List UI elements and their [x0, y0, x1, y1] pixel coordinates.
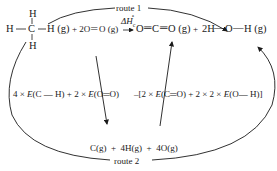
methane-h-right: H (g)	[47, 24, 69, 35]
bond-make-plus: + 2 × 2 ×	[186, 89, 224, 99]
products-plus: +	[193, 25, 198, 34]
bond-make-expression: –[2 × E(C═O) + 2 × 2 × E(O— H)]	[134, 90, 262, 99]
water-bond-2: —	[233, 23, 244, 34]
enthalpy-standard-sup: ∘	[131, 13, 134, 19]
water-bond-1: —	[214, 23, 225, 34]
bond-break-bond-1: (C — H)	[33, 89, 65, 99]
water-h: H (g)	[244, 24, 266, 35]
bond-break-bond-2: (O═O)	[94, 89, 119, 99]
methane-h-top: H	[29, 9, 37, 20]
co2-o-left: O	[136, 24, 144, 35]
gaseous-atoms: C(g) + 4H(g) + 4O(g)	[90, 144, 178, 153]
bond-break-coef-2: 2 ×	[74, 89, 88, 99]
bond-break-expression: 4 × E(C — H) + 2 × E(O═O)	[13, 90, 119, 99]
route-2-label: route 2	[114, 157, 139, 166]
methane-c: C	[28, 24, 35, 35]
co2-state: O (g)	[168, 24, 190, 35]
co2-double-bond-1: ═	[144, 23, 151, 34]
methane-h-left: H	[6, 24, 14, 35]
bond-make-bond-2: (O— H)]	[229, 89, 262, 99]
double-bond-o2: ═	[91, 24, 97, 33]
water-o: O	[225, 24, 233, 35]
route-1-label: route 1	[116, 4, 141, 13]
methane-h-bottom: H	[29, 41, 37, 52]
hess-cycle-diagram: route 1 H H C H H (g) + 2O ═ O (g) ΔHc∘ …	[0, 0, 277, 171]
plus-2o: + 2O	[72, 25, 90, 34]
bond-break-plus: +	[65, 89, 75, 99]
water-coef: 2H	[202, 24, 215, 35]
co2-double-bond-2: ═	[160, 23, 167, 34]
bond-break-coef-1: 4 ×	[13, 89, 27, 99]
bond-make-lead: –[2 ×	[134, 89, 156, 99]
bond-make-bond-1: (C═O)	[161, 89, 186, 99]
o2-state: O (g)	[99, 25, 118, 34]
co2-c: C	[152, 24, 159, 35]
